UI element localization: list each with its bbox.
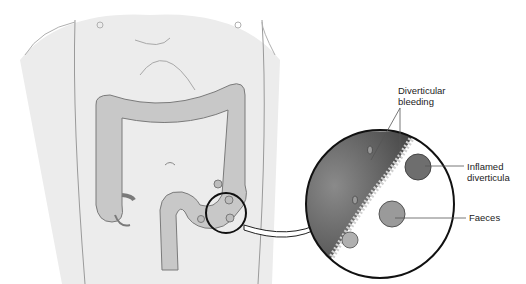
label-inflamed-line2: diverticula [467, 172, 510, 183]
label-faeces: Faeces [469, 212, 500, 223]
label-inflamed-diverticula: Inflamed diverticula [467, 161, 510, 183]
label-inflamed-line1: Inflamed [467, 161, 510, 172]
label-diverticular-bleeding: Diverticular bleeding [398, 85, 446, 107]
diverticula-diagram: Diverticular bleeding Inflamed diverticu… [0, 0, 526, 284]
illustration [0, 0, 526, 284]
label-bleeding-line2: bleeding [398, 96, 446, 107]
detail-view [300, 130, 454, 278]
label-bleeding-line1: Diverticular [398, 85, 446, 96]
